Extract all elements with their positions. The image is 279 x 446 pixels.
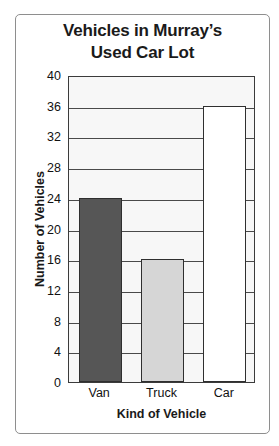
bar-chart-figure: Vehicles in Murray’s Used Car Lot Number…	[0, 0, 279, 446]
chart-title-line-1: Vehicles in Murray’s	[22, 20, 263, 42]
y-axis-tick-label: 16	[47, 253, 61, 267]
y-axis-tick-label: 0	[54, 376, 61, 390]
y-axis-tick-label: 12	[47, 284, 61, 298]
y-axis-tick-label: 36	[47, 100, 61, 114]
y-axis-tick-label: 4	[54, 345, 61, 359]
y-axis-tick-label: 24	[47, 192, 61, 206]
y-axis-tick-label: 8	[54, 315, 61, 329]
x-axis-tick-label-van: Van	[88, 386, 109, 400]
y-axis-title: Number of Vehicles	[33, 149, 47, 309]
y-axis-tick-label: 28	[47, 161, 61, 175]
y-axis-tick-labels: 0481216202428323640	[68, 76, 255, 383]
x-axis-tick-labels: VanTruckCar	[68, 386, 255, 406]
x-axis-tick-label-truck: Truck	[146, 386, 177, 400]
x-axis-title: Kind of Vehicle	[68, 407, 255, 421]
y-axis-tick-label: 40	[47, 69, 61, 83]
y-axis-tick-label: 20	[47, 223, 61, 237]
chart-title-line-2: Used Car Lot	[22, 42, 263, 64]
chart-title: Vehicles in Murray’s Used Car Lot	[22, 20, 263, 64]
y-axis-tick-label: 32	[47, 130, 61, 144]
x-axis-tick-label-car: Car	[214, 386, 234, 400]
